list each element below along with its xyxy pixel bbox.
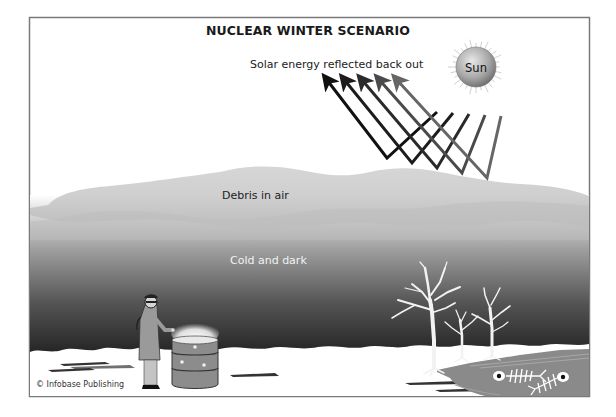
debris-label: Debris in air bbox=[222, 189, 289, 202]
solar-reflection-label: Solar energy reflected back out bbox=[250, 58, 423, 71]
publisher-credit: © Infobase Publishing bbox=[36, 380, 124, 389]
sun-label: Sun bbox=[454, 61, 498, 75]
burning-barrel bbox=[171, 321, 219, 389]
cold-dark-label: Cold and dark bbox=[230, 254, 307, 267]
diagram-title: NUCLEAR WINTER SCENARIO bbox=[0, 23, 616, 38]
